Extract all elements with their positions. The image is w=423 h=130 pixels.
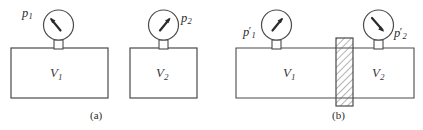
pressure-gauge-p1 (44, 10, 74, 40)
caption-a: (a) (90, 110, 102, 121)
label-p2-prime: p′2 (394, 26, 407, 41)
physics-figure-two-vessels: p1 p2 V1 V2 (a) p′1 p′2 V1 V2 (b) (0, 0, 423, 130)
label-v2-b: V2 (372, 66, 384, 82)
panel-b-group (236, 10, 414, 106)
caption-b: (b) (332, 110, 345, 121)
label-v1-a: V1 (50, 66, 62, 82)
label-v1-b: V1 (283, 66, 295, 82)
label-p2: p2 (181, 12, 192, 26)
vessel-1-neck-a (54, 40, 63, 49)
diagram-canvas (0, 0, 423, 130)
label-p1-prime: p′1 (243, 25, 256, 40)
vessel-2-neck-b (374, 40, 383, 49)
panel-a-group (11, 10, 197, 98)
vessel-1-neck-b (272, 40, 281, 49)
hatched-partition (336, 38, 353, 106)
label-p1: p1 (22, 7, 33, 21)
vessel-2-neck-a (159, 40, 168, 49)
label-v2-a: V2 (156, 66, 168, 82)
